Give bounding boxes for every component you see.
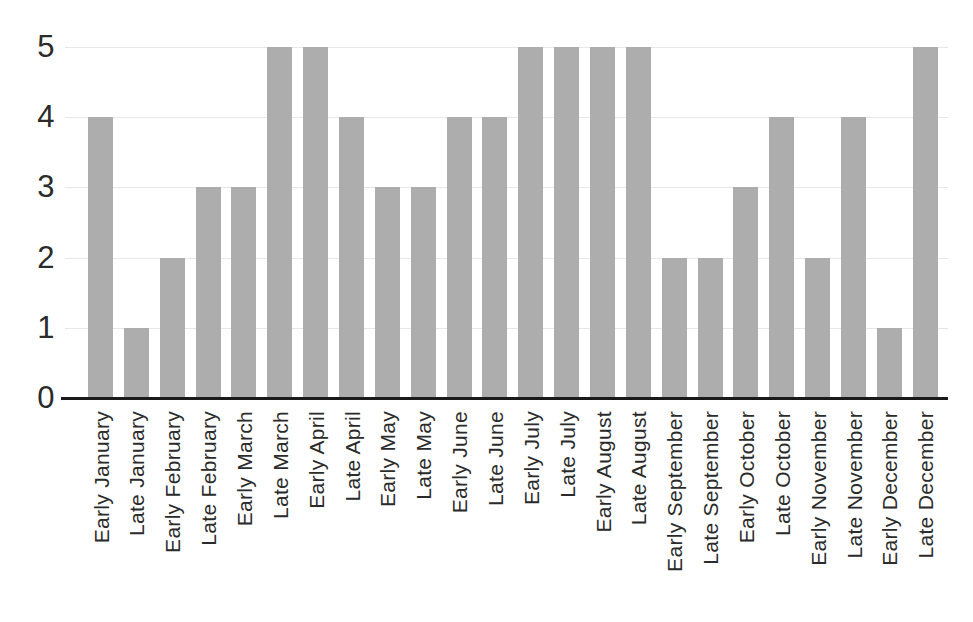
bar	[339, 117, 364, 398]
bar	[375, 187, 400, 398]
x-label-cell: Late June	[482, 411, 507, 616]
y-tick-label-2: 2	[37, 241, 55, 272]
x-tick-label: Early May	[376, 411, 399, 507]
x-label-cell: Early July	[518, 411, 543, 616]
bar-chart: 012345 Early JanuaryLate JanuaryEarly Fe…	[0, 0, 973, 622]
bar	[698, 258, 723, 398]
bar	[88, 117, 113, 398]
x-label-cell: Early December	[877, 411, 902, 616]
bar	[160, 258, 185, 398]
y-axis: 012345	[0, 47, 55, 398]
x-label-cell: Late February	[196, 411, 221, 616]
bar	[196, 187, 221, 398]
x-tick-label: Late November	[843, 411, 866, 558]
bar	[554, 47, 579, 398]
bar	[626, 47, 651, 398]
x-label-cell: Early October	[733, 411, 758, 616]
x-label-cell: Early November	[805, 411, 830, 616]
x-label-cell: Early February	[160, 411, 185, 616]
x-tick-label: Early April	[305, 411, 328, 509]
x-axis-labels: Early JanuaryLate JanuaryEarly FebruaryL…	[65, 411, 948, 616]
x-tick-label: Early February	[161, 411, 184, 553]
y-tick-label-4: 4	[37, 101, 55, 132]
x-label-cell: Late January	[124, 411, 149, 616]
x-tick-label: Early July	[520, 411, 543, 505]
x-label-cell: Late August	[626, 411, 651, 616]
x-label-cell: Late September	[698, 411, 723, 616]
x-tick-label: Late September	[699, 411, 722, 565]
plot-area	[65, 47, 948, 398]
x-tick-label: Early October	[735, 411, 758, 543]
x-tick-label: Late March	[269, 411, 292, 519]
x-tick-label: Early January	[90, 411, 113, 543]
x-tick-label: Early August	[592, 411, 615, 533]
bar	[769, 117, 794, 398]
x-tick-label: Early March	[233, 411, 256, 526]
x-tick-label: Late July	[556, 411, 579, 498]
x-label-cell: Late March	[267, 411, 292, 616]
bar	[124, 328, 149, 398]
x-label-cell: Early January	[88, 411, 113, 616]
bar	[841, 117, 866, 398]
x-tick-label: Late May	[412, 411, 435, 500]
x-tick-label: Late June	[484, 411, 507, 506]
x-tick-label: Early December	[878, 411, 901, 566]
x-label-cell: Early August	[590, 411, 615, 616]
x-label-cell: Early March	[231, 411, 256, 616]
x-label-cell: Late November	[841, 411, 866, 616]
x-tick-label: Early November	[807, 411, 830, 566]
x-label-cell: Early June	[447, 411, 472, 616]
x-label-cell: Early September	[662, 411, 687, 616]
y-tick-label-3: 3	[37, 171, 55, 202]
y-tick-label-1: 1	[37, 312, 55, 343]
x-tick-label: Late August	[627, 411, 650, 525]
bar	[447, 117, 472, 398]
bars	[65, 47, 948, 398]
x-tick-label: Late April	[341, 411, 364, 502]
y-tick-label-0: 0	[37, 382, 55, 413]
x-tick-label: Early September	[663, 411, 686, 572]
bar	[913, 47, 938, 398]
x-label-cell: Late July	[554, 411, 579, 616]
y-tick-label-5: 5	[37, 31, 55, 62]
x-tick-label: Late January	[125, 411, 148, 536]
x-tick-label: Late December	[914, 411, 937, 558]
bar	[805, 258, 830, 398]
bar	[590, 47, 615, 398]
x-label-cell: Late October	[769, 411, 794, 616]
x-tick-label: Late October	[771, 411, 794, 536]
bar	[518, 47, 543, 398]
x-label-cell: Early May	[375, 411, 400, 616]
bar	[303, 47, 328, 398]
bar	[662, 258, 687, 398]
bar	[231, 187, 256, 398]
bar	[411, 187, 436, 398]
bar	[733, 187, 758, 398]
bar	[267, 47, 292, 398]
x-tick-label: Early June	[448, 411, 471, 513]
x-axis-line	[61, 397, 948, 400]
x-tick-label: Late February	[197, 411, 220, 546]
bar	[482, 117, 507, 398]
bar	[877, 328, 902, 398]
x-label-cell: Late May	[411, 411, 436, 616]
x-label-cell: Late December	[913, 411, 938, 616]
x-label-cell: Early April	[303, 411, 328, 616]
x-label-cell: Late April	[339, 411, 364, 616]
